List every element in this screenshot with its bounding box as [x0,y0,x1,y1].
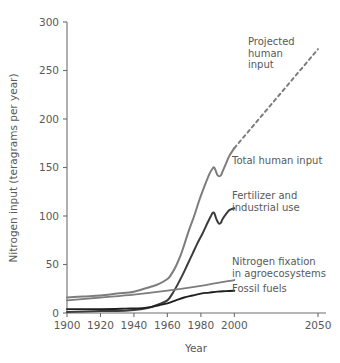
annotation-nitrogen-fixation-in-agroecosystems-line-2: in agroecosystems [232,268,326,279]
x-tick-label-1920: 1920 [87,319,114,331]
series-line-total-human-input [67,148,234,297]
y-tick-label-300: 300 [39,16,59,28]
y-tick-label-50: 50 [46,258,59,270]
annotation-projected-human-input-line-2: human [248,48,283,59]
annotation-fertilizer-and-industrial-use-line-2: industrial use [232,202,300,213]
x-tick-label-1900: 1900 [54,319,81,331]
x-tick-label-1980: 1980 [187,319,214,331]
series-line-nitrogen-fixation-in-agroecosystems [67,280,234,300]
x-tick-label-1960: 1960 [154,319,181,331]
y-axis-ticks [63,22,67,313]
series-annotations: Total human inputProjectedhumaninputFert… [231,36,326,294]
annotation-projected-human-input: Projectedhumaninput [248,36,295,70]
y-tick-label-200: 200 [39,113,59,125]
annotation-total-human-input-line-1: Total human input [231,155,322,166]
y-tick-label-150: 150 [39,161,59,173]
x-axis-tick-labels: 1900192019401960198020002050 [54,319,332,331]
y-axis-tick-labels: 050100150200250300 [39,16,59,319]
nitrogen-input-chart: 050100150200250300 190019201940196019802… [0,0,340,363]
annotation-fossil-fuels: Fossil fuels [232,283,287,294]
x-tick-label-2000: 2000 [221,319,248,331]
x-axis-ticks [67,313,318,317]
x-axis-title: Year [184,342,208,354]
y-tick-label-100: 100 [39,210,59,222]
annotation-projected-human-input-line-3: input [248,59,274,70]
y-axis-title: Nitrogen input (teragrams per year) [7,73,19,262]
x-tick-label-2050: 2050 [305,319,332,331]
annotation-fossil-fuels-line-1: Fossil fuels [232,283,287,294]
annotation-nitrogen-fixation-in-agroecosystems: Nitrogen fixationin agroecosystems [232,256,326,279]
annotation-fertilizer-and-industrial-use: Fertilizer andindustrial use [232,190,300,213]
series-line-projected-human-input [234,49,318,148]
x-tick-label-1940: 1940 [121,319,148,331]
annotation-fertilizer-and-industrial-use-line-1: Fertilizer and [232,190,297,201]
y-tick-label-0: 0 [52,307,59,319]
annotation-nitrogen-fixation-in-agroecosystems-line-1: Nitrogen fixation [232,256,316,267]
annotation-total-human-input: Total human input [231,155,322,166]
annotation-projected-human-input-line-1: Projected [248,36,295,47]
chart-svg: 050100150200250300 190019201940196019802… [0,0,340,363]
y-tick-label-250: 250 [39,64,59,76]
